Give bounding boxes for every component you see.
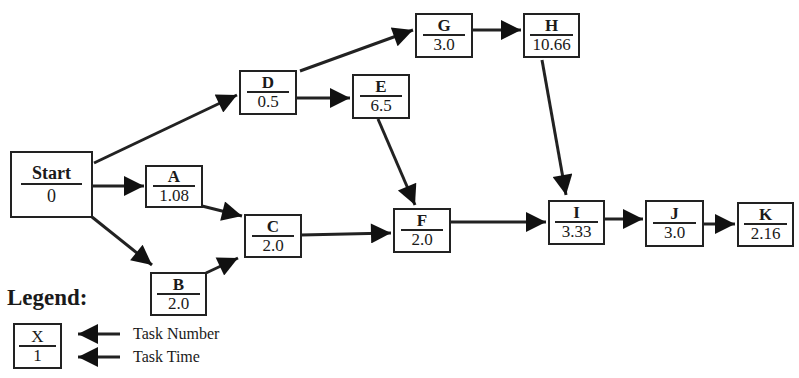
task-time: 3.0 [664,224,685,242]
task-time: 10.66 [532,36,570,54]
node-d: D 0.5 [239,70,297,115]
legend-sample-time: 1 [33,347,42,365]
edge-d-g [300,30,413,71]
node-c: C 2.0 [244,214,302,258]
node-a: A 1.08 [145,165,203,208]
node-e: E 6.5 [352,74,410,119]
task-number: Start [21,163,82,185]
task-time: 3.0 [433,36,454,54]
task-time: 2.0 [411,231,432,249]
task-time: 0.5 [257,93,278,111]
node-start: Start 0 [10,151,93,218]
task-number: I [555,204,597,223]
task-time: 1.08 [159,187,189,205]
legend-title: Legend: [7,285,88,311]
node-g: G 3.0 [415,13,473,58]
task-number: C [252,218,295,237]
legend-task-time-label: Task Time [133,348,200,366]
task-number: J [653,205,697,224]
node-f: F 2.0 [393,208,451,253]
task-number: F [401,212,444,231]
edge-start-b [92,217,152,265]
edge-b-c [206,258,238,273]
node-b: B 2.0 [150,272,207,316]
edges-layer [0,0,799,378]
edge-h-i [542,60,566,195]
task-number: K [744,206,786,225]
task-number: G [423,17,466,36]
edge-a-c [202,206,242,216]
node-i: I 3.33 [548,200,605,245]
task-number: A [153,168,196,187]
task-time: 0 [47,185,56,207]
node-k: K 2.16 [737,202,794,247]
task-number: B [157,276,199,295]
node-j: J 3.0 [645,200,704,247]
task-number: D [247,74,290,93]
task-time: 3.33 [562,223,592,241]
task-number: E [360,78,403,97]
edge-c-f [301,233,391,235]
task-time: 6.5 [370,97,391,115]
task-time: 2.0 [262,237,283,255]
edge-e-f [378,119,415,205]
legend-task-number-label: Task Number [133,325,219,343]
legend-sample-task: X [19,328,55,347]
legend-sample-node: X 1 [13,323,62,369]
task-time: 2.16 [751,225,781,243]
node-h: H 10.66 [523,13,580,58]
task-number: H [530,17,572,36]
task-time: 2.0 [168,295,189,313]
edge-start-d [94,95,237,163]
